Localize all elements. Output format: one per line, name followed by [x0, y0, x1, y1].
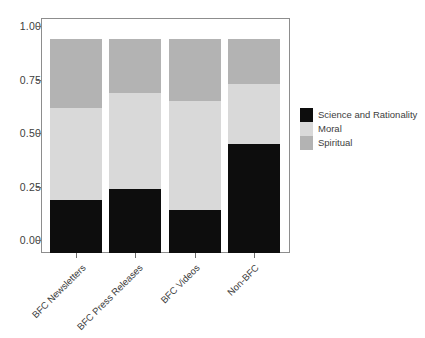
legend-item-spiritual[interactable]: Spiritual: [300, 136, 425, 150]
segment-moral: [109, 93, 161, 189]
bar-non-bfc[interactable]: [228, 39, 280, 253]
segment-science-and-rationality: [50, 200, 102, 254]
segment-spiritual: [50, 39, 102, 108]
segment-moral: [169, 101, 221, 210]
legend-item-moral[interactable]: Moral: [300, 122, 425, 136]
stacked-bar-chart: 1.00 0.75 0.50 0.25 0.00: [0, 0, 425, 338]
legend: Science and Rationality Moral Spiritual: [300, 108, 425, 150]
legend-label: Spiritual: [318, 137, 352, 149]
x-tick-mark: [135, 253, 136, 258]
legend-label: Moral: [318, 123, 342, 135]
x-tick-mark: [254, 253, 255, 258]
segment-spiritual: [109, 39, 161, 93]
legend-label: Science and Rationality: [318, 109, 417, 121]
segment-science-and-rationality: [169, 210, 221, 253]
bar-bfc-videos[interactable]: [169, 39, 221, 253]
segment-spiritual: [228, 39, 280, 84]
segment-science-and-rationality: [109, 189, 161, 253]
legend-swatch-spiritual: [300, 136, 313, 150]
segment-spiritual: [169, 39, 221, 101]
x-tick-mark: [195, 253, 196, 258]
segment-moral: [228, 84, 280, 144]
segment-moral: [50, 108, 102, 200]
legend-swatch-moral: [300, 122, 313, 136]
legend-swatch-science-and-rationality: [300, 108, 313, 122]
bar-bfc-press-releases[interactable]: [109, 39, 161, 253]
bar-bfc-newsletters[interactable]: [50, 39, 102, 253]
segment-science-and-rationality: [228, 144, 280, 253]
x-tick-mark: [76, 253, 77, 258]
legend-item-science-and-rationality[interactable]: Science and Rationality: [300, 108, 425, 122]
